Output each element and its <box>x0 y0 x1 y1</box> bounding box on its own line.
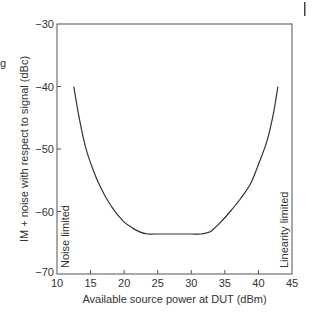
y-tick-label: −50 <box>35 143 54 155</box>
data-series-line <box>74 87 278 235</box>
x-axis-ticks: 1015202530354045 <box>51 270 298 289</box>
x-tick-label: 40 <box>252 277 264 289</box>
x-tick-label: 10 <box>51 277 63 289</box>
y-tick-label: −40 <box>35 81 54 93</box>
y-tick-label: −30 <box>35 18 54 30</box>
plot-frame <box>57 24 292 274</box>
page-edge-mark <box>304 2 306 16</box>
annotation-linearity-limited: Linearity limited <box>278 192 290 268</box>
annotation-noise-limited: Noise limited <box>59 205 71 268</box>
x-tick-label: 45 <box>286 277 298 289</box>
x-tick-label: 35 <box>219 277 231 289</box>
x-tick-label: 25 <box>152 277 164 289</box>
page-edge-glyph: g <box>0 57 6 69</box>
chart: g 1015202530354045 −70−60−50−40−30 Noise… <box>0 0 312 320</box>
y-tick-label: −70 <box>35 266 54 278</box>
x-tick-label: 15 <box>84 277 96 289</box>
x-axis-label: Available source power at DUT (dBm) <box>82 293 266 305</box>
y-axis-label: IM + noise with respect to signal (dBc) <box>18 56 30 242</box>
x-tick-label: 30 <box>185 277 197 289</box>
x-tick-label: 20 <box>118 277 130 289</box>
y-tick-label: −60 <box>35 206 54 218</box>
